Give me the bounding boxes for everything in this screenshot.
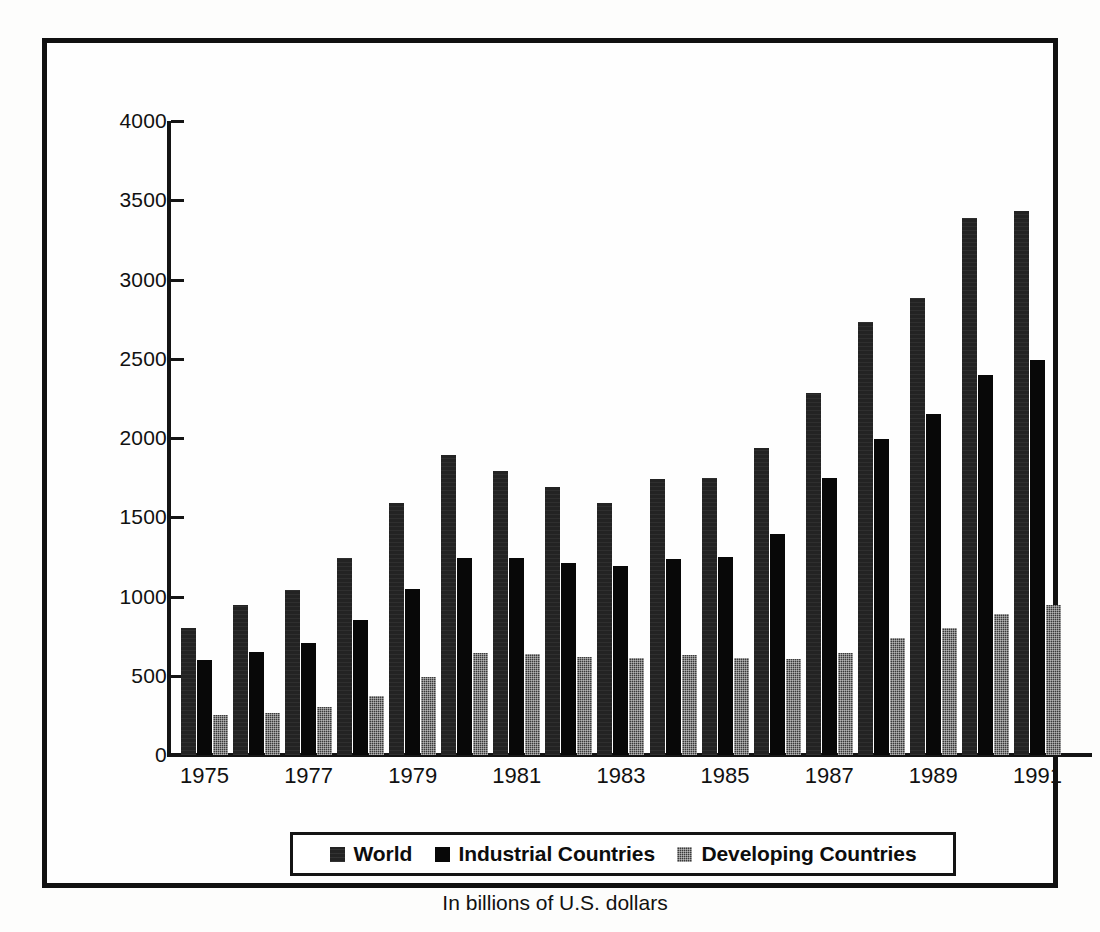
bar-industrial-countries-1979 [405,589,420,755]
bar-industrial-countries-1984 [666,559,681,755]
legend-label: Developing Countries [701,842,916,866]
bar-world-1986 [754,448,769,755]
y-axis-tick-label-wrap: 4000 [95,121,167,122]
bar-developing-countries-1988 [890,638,905,755]
bar-industrial-countries-1976 [249,652,264,755]
chart-figure: 05001000150020002500300035004000 1975197… [0,0,1100,932]
bar-world-1984 [650,479,665,755]
bar-developing-countries-1989 [942,628,957,755]
bar-developing-countries-1978 [369,696,384,755]
y-axis-tick-label-wrap: 0 [95,755,167,756]
bar-developing-countries-1987 [838,653,853,755]
y-axis-tick-label: 1000 [103,586,167,607]
y-axis-tick-label: 2500 [103,348,167,369]
y-axis-tick-label: 2000 [103,427,167,448]
x-axis-label-1987: 1987 [794,765,864,787]
legend-item-world[interactable]: World [330,842,413,866]
bar-developing-countries-1990 [994,614,1009,755]
bar-developing-countries-1986 [786,659,801,755]
bar-developing-countries-1980 [473,653,488,755]
x-axis-label-1985: 1985 [690,765,760,787]
bar-world-1983 [597,503,612,755]
x-axis-label-1975: 1975 [170,765,240,787]
bar-industrial-countries-1978 [353,620,368,755]
bar-developing-countries-1982 [577,657,592,755]
y-axis-tick-label-wrap: 2500 [95,359,167,360]
bar-world-1977 [285,590,300,755]
bar-industrial-countries-1981 [509,558,524,755]
bar-industrial-countries-1983 [613,566,628,755]
bar-world-1989 [910,298,925,755]
y-axis-tick-label: 500 [103,665,167,686]
bar-world-1976 [233,605,248,755]
y-axis-tick-label-wrap: 2000 [95,438,167,439]
y-axis-tick-label-wrap: 500 [95,676,167,677]
bar-industrial-countries-1985 [718,557,733,755]
bar-industrial-countries-1982 [561,563,576,755]
bar-industrial-countries-1988 [874,439,889,755]
x-axis-label-1979: 1979 [378,765,448,787]
bar-world-1991 [1014,211,1029,755]
y-axis-tick-label: 0 [103,744,167,765]
y-axis-tick [171,437,184,440]
legend-label: Industrial Countries [459,842,655,866]
legend-item-developing[interactable]: Developing Countries [677,842,916,866]
bar-world-1990 [962,218,977,755]
legend-swatch-icon-world [330,847,345,862]
legend-swatch-icon-industrial [435,847,450,862]
bar-industrial-countries-1977 [301,643,316,755]
x-axis-label-1983: 1983 [586,765,656,787]
y-axis-tick-label: 3500 [103,189,167,210]
y-axis-tick [171,120,184,123]
bar-developing-countries-1981 [525,654,540,755]
bar-industrial-countries-1986 [770,534,785,755]
y-axis-tick-label-wrap: 1500 [95,517,167,518]
bar-world-1975 [181,628,196,755]
bar-developing-countries-1983 [629,658,644,755]
chart-subtitle: In billions of U.S. dollars [47,891,1063,915]
x-axis-label-1991: 1991 [1002,765,1072,787]
y-axis-tick-label-wrap: 3500 [95,200,167,201]
x-axis-label-1989: 1989 [898,765,968,787]
bar-world-1978 [337,558,352,755]
y-axis-tick-label: 4000 [103,110,167,131]
y-axis-tick [171,516,184,519]
bar-developing-countries-1979 [421,677,436,755]
x-axis-label-1977: 1977 [274,765,344,787]
bar-developing-countries-1975 [213,715,228,755]
bar-world-1982 [545,487,560,755]
bar-world-1981 [493,471,508,755]
bar-industrial-countries-1987 [822,478,837,755]
chart-legend: WorldIndustrial CountriesDeveloping Coun… [290,832,956,876]
bar-industrial-countries-1989 [926,414,941,755]
bar-world-1980 [441,455,456,755]
bar-industrial-countries-1991 [1030,360,1045,755]
bar-world-1985 [702,478,717,755]
y-axis-tick-label-wrap: 1000 [95,597,167,598]
y-axis-tick [171,279,184,282]
y-axis-tick [171,596,184,599]
y-axis-tick-label: 3000 [103,269,167,290]
bar-industrial-countries-1975 [197,660,212,755]
y-axis-tick [171,199,184,202]
y-axis-tick-label: 1500 [103,506,167,527]
legend-swatch-icon-developing [677,847,692,862]
y-axis-tick [171,358,184,361]
bar-world-1988 [858,322,873,755]
bar-developing-countries-1991 [1046,605,1061,755]
bar-world-1979 [389,503,404,755]
y-axis-tick-label-wrap: 3000 [95,280,167,281]
bar-developing-countries-1977 [317,707,332,755]
chart-frame: 05001000150020002500300035004000 1975197… [42,38,1058,888]
bar-industrial-countries-1980 [457,558,472,755]
legend-label: World [354,842,413,866]
x-axis-label-1981: 1981 [482,765,552,787]
bar-developing-countries-1976 [265,713,280,755]
bar-industrial-countries-1990 [978,375,993,755]
bar-developing-countries-1984 [682,655,697,755]
legend-item-industrial[interactable]: Industrial Countries [435,842,655,866]
bar-world-1987 [806,393,821,755]
bar-developing-countries-1985 [734,658,749,755]
